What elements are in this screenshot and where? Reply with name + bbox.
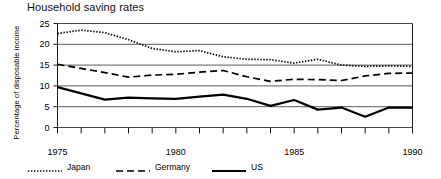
x-tick-label: 1980 [156, 147, 196, 157]
y-tick-label: 5 [30, 102, 50, 112]
legend-label: Germany [155, 162, 190, 172]
chart-legend: JapanGermanyUS [0, 160, 441, 176]
y-tick-label: 20 [30, 39, 50, 49]
legend-swatch-dotted-icon [28, 162, 62, 172]
legend-swatch-dashed-icon [116, 162, 150, 172]
legend-item-germany[interactable]: Germany [116, 160, 190, 174]
series-line-japan [58, 30, 413, 66]
y-tick-label: 25 [30, 19, 50, 29]
x-tick-label: 1990 [393, 147, 433, 157]
chart-figure: Household saving rates Percentage of dis… [0, 0, 441, 179]
legend-label: Japan [67, 162, 90, 172]
y-tick-label: 10 [30, 81, 50, 91]
legend-item-us[interactable]: US [212, 160, 263, 174]
series-line-us [58, 87, 413, 117]
legend-item-japan[interactable]: Japan [28, 160, 90, 174]
legend-swatch-solid-icon [212, 162, 246, 172]
x-tick-label: 1975 [38, 147, 78, 157]
x-tick-label: 1985 [274, 147, 314, 157]
y-tick-label: 0 [30, 123, 50, 133]
legend-label: US [251, 162, 263, 172]
y-tick-label: 15 [30, 60, 50, 70]
